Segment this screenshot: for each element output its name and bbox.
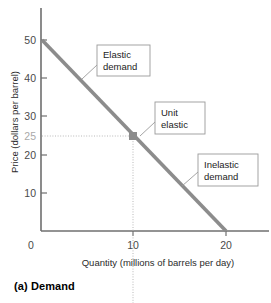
figure-caption: (a) Demand	[14, 280, 75, 292]
callout-unit-elastic: Unit elastic	[155, 102, 205, 134]
y-tick-label-30: 30	[24, 110, 36, 122]
leader-line-unit-elastic	[140, 122, 155, 136]
unit-elastic-marker	[129, 132, 137, 140]
callout-unit-elastic-line1: Unit	[161, 107, 178, 118]
callout-elastic-demand-line2: demand	[103, 61, 137, 72]
y-tick-label-40: 40	[24, 72, 36, 84]
x-tick-label-10: 10	[127, 239, 139, 251]
x-tick-label-0: 0	[28, 239, 34, 251]
x-tick-label-20: 20	[220, 239, 232, 251]
x-axis-title: Quantity (millions of barrels per day)	[82, 257, 235, 268]
callout-elastic-demand: Elastic demand	[97, 45, 150, 76]
callout-inelastic-demand-line1: Inelastic	[204, 159, 239, 170]
callout-unit-elastic-line2: elastic	[161, 119, 188, 130]
y-tick-label-10: 10	[24, 187, 36, 199]
y-tick-label-20: 20	[24, 149, 36, 161]
chart-figure: 50 40 30 25 20 10 0 10 20 Price (dollars…	[0, 0, 271, 303]
callout-inelastic-demand: Inelastic demand	[198, 154, 258, 186]
callout-inelastic-demand-line2: demand	[204, 171, 238, 182]
y-tick-label-50: 50	[24, 34, 36, 46]
leader-line-inelastic	[182, 172, 198, 186]
y-axis-title: Price (dollars per barrel)	[9, 71, 20, 173]
callout-elastic-demand-line1: Elastic	[103, 49, 131, 60]
demand-elasticity-chart: 50 40 30 25 20 10 0 10 20 Price (dollars…	[0, 0, 271, 303]
leader-line-elastic	[82, 65, 97, 79]
y-tick-label-25: 25	[24, 130, 36, 142]
